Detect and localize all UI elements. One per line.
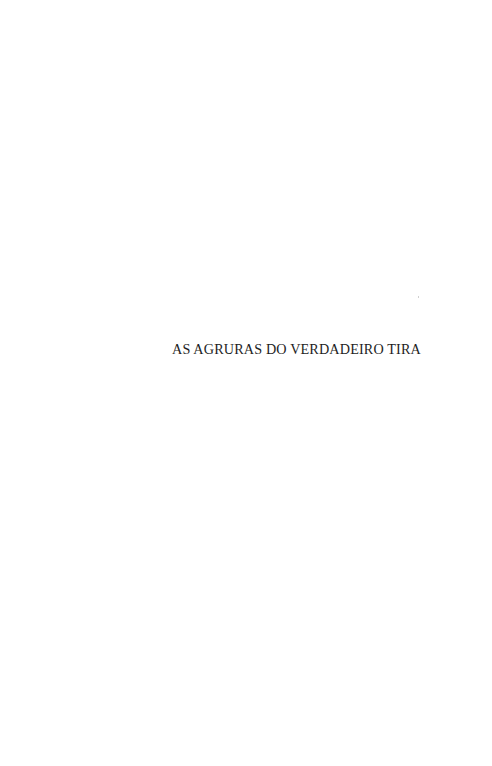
half-title: AS AGRURAS DO VERDADEIRO TIRA [172, 340, 432, 358]
book-page: AS AGRURAS DO VERDADEIRO TIRA [0, 0, 492, 766]
scan-speck [418, 296, 419, 298]
